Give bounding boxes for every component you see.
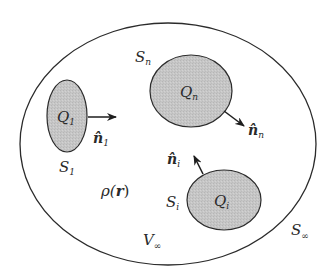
conductor-n: Qn Sn n̂n bbox=[135, 48, 264, 140]
normal-label-n: n̂n bbox=[248, 122, 264, 140]
conductor-1: Q1 n̂1 S1 bbox=[47, 80, 116, 177]
volume-label-v-infinity: V∞ bbox=[143, 231, 161, 251]
conductors-diagram: Q1 n̂1 S1 Qn Sn n̂n Qi n̂i Si ρ(r) V∞ S∞ bbox=[0, 0, 325, 273]
surface-label-1: S1 bbox=[59, 158, 75, 177]
surface-label-n: Sn bbox=[135, 48, 151, 67]
normal-label-1: n̂1 bbox=[93, 130, 109, 148]
normal-arrow-i bbox=[194, 156, 203, 174]
charge-density-label: ρ(r) bbox=[100, 182, 129, 200]
surface-label-s-infinity: S∞ bbox=[291, 221, 309, 241]
normal-arrow-n bbox=[224, 111, 244, 126]
normal-label-i: n̂i bbox=[167, 151, 180, 169]
conductor-i: Qi n̂i Si bbox=[166, 151, 261, 230]
surface-label-i: Si bbox=[166, 193, 179, 212]
